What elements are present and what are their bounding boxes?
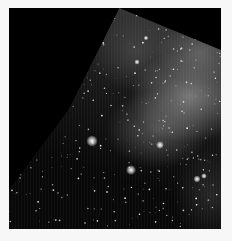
astronomical-image (9, 8, 221, 229)
bright-stars (86, 36, 207, 183)
